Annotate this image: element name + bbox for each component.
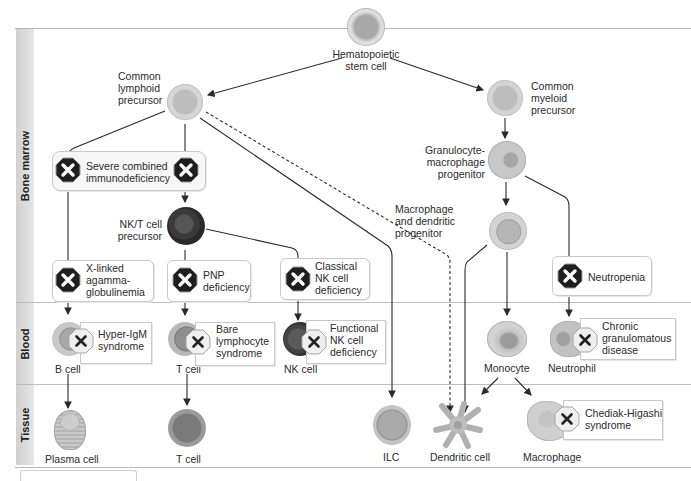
deficiency-scid-label: Severe combined immunodeficiency — [86, 160, 170, 184]
granulocyte-macrophage-progenitor — [488, 141, 526, 179]
deficiency-functional-nk-label: Functional NK cell deficiency — [330, 322, 378, 358]
deficiency-neutropenia-label: Neutropenia — [588, 271, 645, 283]
label-monocyte: Monocyte — [484, 362, 530, 374]
label-cmp: Common myeloid precursor — [531, 80, 575, 116]
common-myeloid-precursor — [487, 80, 523, 116]
block-x-icon — [572, 327, 598, 353]
ilc — [373, 405, 411, 445]
label-nkt: NK/T cell precursor — [96, 218, 162, 242]
deficiency-classical-nk-label: Classical NK cell deficiency — [315, 260, 362, 296]
dendritic-cell — [432, 400, 484, 450]
deficiency-hyper-igm-label: Hyper-IgM syndrome — [98, 328, 147, 352]
label-clp: Common lymphoid precursor — [118, 70, 162, 106]
label-t-cell-tissue: T cell — [176, 453, 201, 465]
label-hsc: Hematopoietic stem cell — [318, 48, 414, 72]
label-gmp: Granulocyte- macrophage progenitor — [395, 144, 485, 180]
label-b-cell: B cell — [55, 363, 81, 375]
label-macrophage: Macrophage — [523, 451, 581, 463]
hematopoietic-stem-cell — [347, 8, 385, 46]
label-neutrophil: Neutrophil — [548, 362, 596, 374]
block-x-icon — [173, 157, 199, 183]
block-x-icon — [185, 329, 211, 355]
label-dendritic-cell: Dendritic cell — [430, 451, 490, 463]
label-mdp: Macrophage and dendritic progenitor — [395, 203, 485, 239]
label-ilc: ILC — [383, 451, 399, 463]
macrophage-dendritic-progenitor — [489, 212, 527, 250]
common-lymphoid-precursor — [167, 84, 203, 120]
block-x-icon — [55, 157, 81, 183]
label-nk-cell: NK cell — [284, 363, 317, 375]
block-x-icon — [55, 267, 81, 293]
block-x-icon — [68, 328, 94, 354]
deficiency-chediak-higashi-label: Chediak-Higashi syndrome — [585, 407, 662, 431]
label-plasma-cell: Plasma cell — [45, 453, 99, 465]
block-x-icon — [285, 266, 311, 292]
block-x-icon — [301, 329, 327, 355]
caption-box-edge — [20, 470, 137, 481]
monocyte — [487, 321, 527, 357]
deficiency-xla-label: X-linked agamma- globulinemia — [86, 262, 145, 298]
deficiency-pnp-label: PNP deficiency — [203, 269, 250, 293]
block-x-icon — [172, 267, 198, 293]
t-cell-tissue — [168, 409, 206, 447]
nk-t-cell-precursor — [167, 207, 205, 245]
deficiency-cgd-label: Chronic granulomatous disease — [602, 320, 671, 356]
deficiency-bare-lymphocyte-label: Bare lymphocyte syndrome — [216, 323, 269, 359]
block-x-icon — [554, 406, 580, 432]
block-x-icon — [557, 263, 583, 289]
plasma-cell-nucleus — [60, 413, 80, 431]
